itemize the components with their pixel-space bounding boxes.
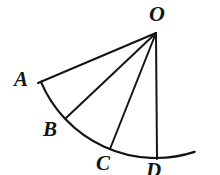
point-label-d: D	[146, 160, 161, 175]
point-label-o: O	[149, 3, 165, 25]
figure-canvas	[0, 0, 220, 175]
radius-od	[156, 33, 157, 159]
point-label-b: B	[43, 119, 57, 140]
point-label-a: A	[14, 69, 28, 90]
geometry-figure: O A B C D	[0, 0, 220, 175]
point-label-c: C	[96, 153, 110, 174]
